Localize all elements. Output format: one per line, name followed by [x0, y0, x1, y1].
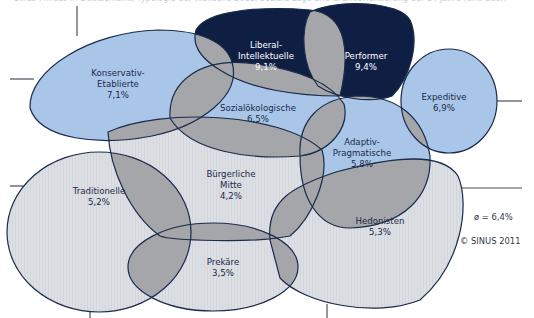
milieu-value: 5,2%	[88, 197, 110, 207]
average-note: ø = 6,4%	[474, 212, 513, 222]
milieu-name: Etablierte	[97, 79, 139, 89]
milieu-name: Konservativ-	[91, 68, 144, 78]
sinus-milieu-diagram: Konservativ- Etablierte 7,1% Liberal- In…	[0, 0, 534, 318]
milieu-name: Sozialökologische	[220, 103, 296, 113]
milieu-name: Traditionelle	[72, 186, 125, 196]
milieu-name: Liberal-	[250, 40, 282, 50]
milieu-value: 5,3%	[369, 227, 391, 237]
milieu-name: Intellektuelle	[238, 51, 294, 61]
milieu-name: Mitte	[220, 180, 242, 190]
milieu-name: Performer	[345, 51, 388, 61]
milieu-name: Hedonisten	[356, 216, 405, 226]
milieu-value: 4,2%	[220, 191, 242, 201]
milieu-value: 5,8%	[351, 159, 373, 169]
milieu-name: Prekäre	[207, 257, 239, 267]
milieu-value: 9,4%	[355, 62, 377, 72]
copyright-note: © SINUS 2011	[460, 236, 521, 246]
milieu-value: 3,5%	[212, 268, 234, 278]
milieu-name: Adaptiv-	[344, 137, 380, 147]
milieu-value: 6,5%	[247, 114, 269, 124]
milieu-name: Expeditive	[421, 92, 466, 102]
milieu-name: Bürgerliche	[206, 169, 255, 179]
milieu-value: 9,1%	[255, 62, 277, 72]
milieu-value: 6,9%	[433, 103, 455, 113]
milieu-value: 7,1%	[107, 90, 129, 100]
milieu-name: Pragmatische	[333, 148, 392, 158]
